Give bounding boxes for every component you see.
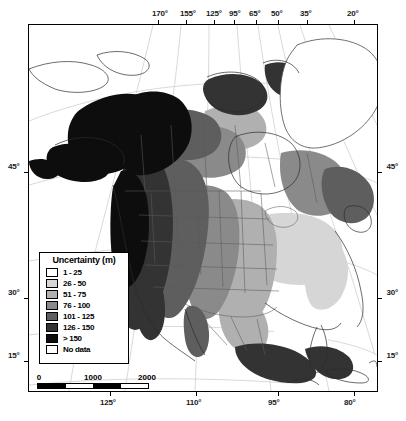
legend-row-5[interactable]: 126 - 150	[46, 322, 128, 333]
axis-label-left-2: 15°	[8, 351, 20, 360]
scale-seg-0	[38, 384, 66, 388]
legend-label-7: No data	[63, 345, 90, 354]
legend-label-2: 51 - 75	[63, 290, 86, 299]
tick-top-7	[354, 20, 355, 24]
legend-swatch-4	[46, 312, 58, 321]
legend-swatch-3	[46, 301, 58, 310]
axis-label-bottom-0: 125°	[100, 398, 116, 407]
uncertainty-map-figure: 170° 155° 125° 95° 65° 50° 35° 20° 125° …	[0, 0, 406, 421]
tick-top-5	[278, 20, 279, 24]
tick-right-0	[378, 172, 382, 173]
legend-row-0[interactable]: 1 - 25	[46, 267, 128, 278]
map-frame[interactable]: Uncertainty (m) 1 - 25 26 - 50 51 - 75 7…	[28, 24, 378, 392]
axis-label-top-7: 20°	[347, 9, 359, 18]
axis-label-bottom-2: 95°	[268, 398, 280, 407]
axis-label-top-3: 95°	[229, 9, 241, 18]
scale-tick-0: 0	[37, 373, 41, 382]
axis-label-top-1: 155°	[180, 9, 196, 18]
axis-label-left-1: 30°	[8, 288, 20, 297]
axis-label-bottom-1: 110°	[186, 398, 201, 407]
tick-top-1	[186, 20, 187, 24]
tick-bottom-2	[278, 392, 279, 396]
axis-label-top-4: 65°	[249, 9, 261, 18]
legend-label-1: 26 - 50	[63, 279, 86, 288]
legend-swatch-1	[46, 279, 58, 288]
legend-label-0: 1 - 25	[63, 268, 82, 277]
scale-bar-ticks: 0 1000 2000	[37, 373, 149, 383]
legend-title: Uncertainty (m)	[40, 255, 128, 265]
legend-swatch-6	[46, 334, 58, 343]
legend-swatch-7	[46, 345, 58, 354]
axis-label-top-0: 170°	[152, 9, 168, 18]
tick-top-2	[214, 20, 215, 24]
axis-label-right-2: 15°	[387, 351, 399, 360]
tick-bottom-0	[110, 392, 111, 396]
tick-top-6	[307, 20, 308, 24]
legend-row-4[interactable]: 101 - 125	[46, 311, 128, 322]
legend-label-6: > 150	[63, 334, 82, 343]
axis-label-left-0: 45°	[8, 162, 20, 171]
axis-label-right-1: 30°	[387, 288, 399, 297]
legend-row-7[interactable]: No data	[46, 344, 128, 355]
legend-panel[interactable]: Uncertainty (m) 1 - 25 26 - 50 51 - 75 7…	[39, 252, 129, 364]
scale-bar-track	[37, 383, 149, 389]
legend-row-3[interactable]: 76 - 100	[46, 300, 128, 311]
legend-row-1[interactable]: 26 - 50	[46, 278, 128, 289]
axis-label-right-0: 45°	[387, 162, 399, 171]
legend-label-5: 126 - 150	[63, 323, 94, 332]
tick-left-1	[24, 298, 28, 299]
legend-row-6[interactable]: > 150	[46, 333, 128, 344]
axis-label-top-6: 35°	[300, 9, 312, 18]
tick-right-1	[378, 298, 382, 299]
axis-label-bottom-3: 80°	[344, 398, 356, 407]
axis-label-top-2: 125°	[206, 9, 222, 18]
tick-bottom-1	[196, 392, 197, 396]
tick-left-2	[24, 361, 28, 362]
tick-top-4	[256, 20, 257, 24]
tick-left-0	[24, 172, 28, 173]
scale-tick-2: 2000	[138, 373, 156, 382]
scale-tick-1: 1000	[84, 373, 102, 382]
scale-seg-2	[93, 384, 121, 388]
region-greenland-no-data	[280, 39, 377, 148]
legend-swatch-2	[46, 290, 58, 299]
axis-label-top-5: 50°	[271, 9, 283, 18]
scale-bar: 0 1000 2000 kilometres	[37, 373, 149, 392]
legend-swatch-5	[46, 323, 58, 332]
legend-label-3: 76 - 100	[63, 301, 90, 310]
tick-right-2	[378, 361, 382, 362]
scale-seg-3	[121, 384, 149, 388]
legend-label-4: 101 - 125	[63, 312, 94, 321]
scale-bar-caption: kilometres	[37, 390, 149, 392]
tick-bottom-3	[354, 392, 355, 396]
legend-row-2[interactable]: 51 - 75	[46, 289, 128, 300]
tick-top-3	[234, 20, 235, 24]
tick-top-0	[158, 20, 159, 24]
legend-swatch-0	[46, 268, 58, 277]
scale-seg-1	[66, 384, 94, 388]
